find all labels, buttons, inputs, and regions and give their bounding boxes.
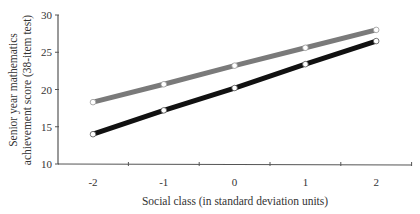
series-group	[90, 27, 379, 137]
y-axis-title: Senior year mathematics achievement scor…	[7, 15, 34, 166]
x-tick-label: -1	[159, 176, 168, 188]
data-point-marker	[303, 61, 309, 67]
y-tick-label: 20	[41, 84, 53, 96]
x-tick-label: 2	[373, 176, 379, 188]
y-tick-label: 25	[41, 46, 53, 58]
y-tick-label: 10	[41, 158, 53, 170]
data-point-marker	[90, 131, 96, 137]
data-point-marker	[232, 85, 238, 91]
data-point-marker	[303, 45, 309, 51]
y-tick-label: 15	[41, 121, 53, 133]
x-axis: -2-1012	[58, 162, 412, 188]
y-axis-title-line2: achievement score (38-item test)	[21, 15, 34, 166]
y-axis-title-line1: Senior year mathematics	[7, 33, 20, 147]
x-tick-label: 1	[303, 176, 309, 188]
data-point-marker	[90, 99, 96, 105]
x-tick-label: 0	[232, 176, 238, 188]
data-point-marker	[161, 108, 167, 114]
line-chart: 1015202530 -2-1012 Social class (in stan…	[0, 0, 420, 214]
data-point-marker	[373, 38, 379, 44]
x-axis-title: Social class (in standard deviation unit…	[142, 195, 328, 208]
y-axis: 1015202530	[41, 9, 59, 170]
data-point-marker	[161, 81, 167, 87]
x-axis-line	[58, 164, 412, 165]
data-point-marker	[373, 27, 379, 33]
y-tick-label: 30	[41, 9, 53, 21]
data-point-marker	[232, 63, 238, 69]
x-tick-label: -2	[88, 176, 97, 188]
